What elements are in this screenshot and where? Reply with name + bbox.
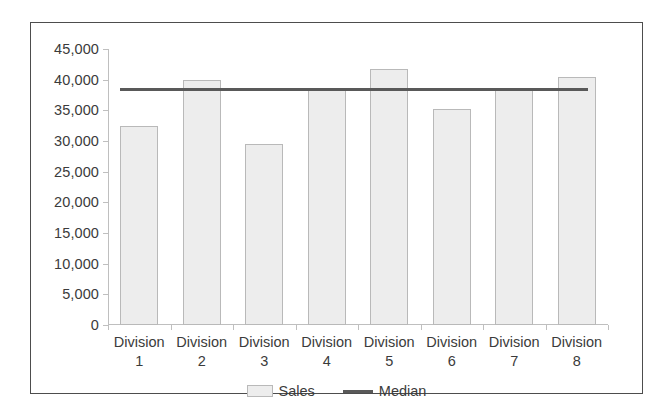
y-tick-mark: [103, 80, 108, 81]
x-tick-1: [171, 325, 172, 330]
category-label-2: Division 2: [171, 333, 234, 371]
bar-2: [183, 80, 221, 325]
category-label-1: Division 1: [108, 333, 171, 371]
y-tick-mark: [103, 141, 108, 142]
legend-label-median: Median: [379, 383, 427, 399]
chart-legend: Sales Median: [31, 383, 642, 399]
x-tick-0: [108, 325, 109, 330]
y-tick-label: 20,000: [54, 194, 99, 210]
category-label-5: Division 5: [358, 333, 421, 371]
bar-6: [433, 109, 471, 325]
y-tick-label: 10,000: [54, 256, 99, 272]
category-label-7: Division 7: [483, 333, 546, 371]
y-tick-label: 25,000: [54, 164, 99, 180]
x-tick-6: [483, 325, 484, 330]
bar-5: [370, 69, 408, 325]
bar-1: [120, 126, 158, 325]
y-tick-mark: [103, 233, 108, 234]
y-tick-label: 15,000: [54, 225, 99, 241]
legend-label-sales: Sales: [279, 383, 315, 399]
bar-7: [495, 89, 533, 325]
legend-entry-median: Median: [343, 383, 427, 399]
category-label-3: Division 3: [233, 333, 296, 371]
y-tick-mark: [103, 264, 108, 265]
median-reference-line: [120, 88, 588, 91]
plot-area: 05,00010,00015,00020,00025,00030,00035,0…: [108, 49, 608, 325]
x-tick-7: [546, 325, 547, 330]
median-swatch-icon: [343, 390, 373, 393]
y-tick-mark: [103, 49, 108, 50]
category-label-6: Division 6: [421, 333, 484, 371]
x-tick-5: [421, 325, 422, 330]
bar-4: [308, 89, 346, 325]
category-label-4: Division 4: [296, 333, 359, 371]
y-tick-label: 30,000: [54, 133, 99, 149]
x-tick-8: [608, 325, 609, 330]
category-label-8: Division 8: [546, 333, 609, 371]
y-tick-mark: [103, 172, 108, 173]
y-tick-mark: [103, 294, 108, 295]
y-tick-label: 45,000: [54, 41, 99, 57]
y-tick-label: 0: [91, 317, 99, 333]
x-tick-4: [358, 325, 359, 330]
x-tick-2: [233, 325, 234, 330]
bar-8: [558, 77, 596, 325]
legend-entry-sales: Sales: [247, 383, 315, 399]
x-tick-3: [296, 325, 297, 330]
y-axis-line: [108, 49, 109, 325]
bar-3: [245, 144, 283, 325]
chart-frame: 05,00010,00015,00020,00025,00030,00035,0…: [30, 22, 643, 394]
sales-swatch-icon: [247, 385, 273, 397]
y-tick-label: 35,000: [54, 102, 99, 118]
y-tick-mark: [103, 202, 108, 203]
y-tick-label: 40,000: [54, 72, 99, 88]
y-tick-mark: [103, 110, 108, 111]
y-tick-label: 5,000: [62, 286, 99, 302]
